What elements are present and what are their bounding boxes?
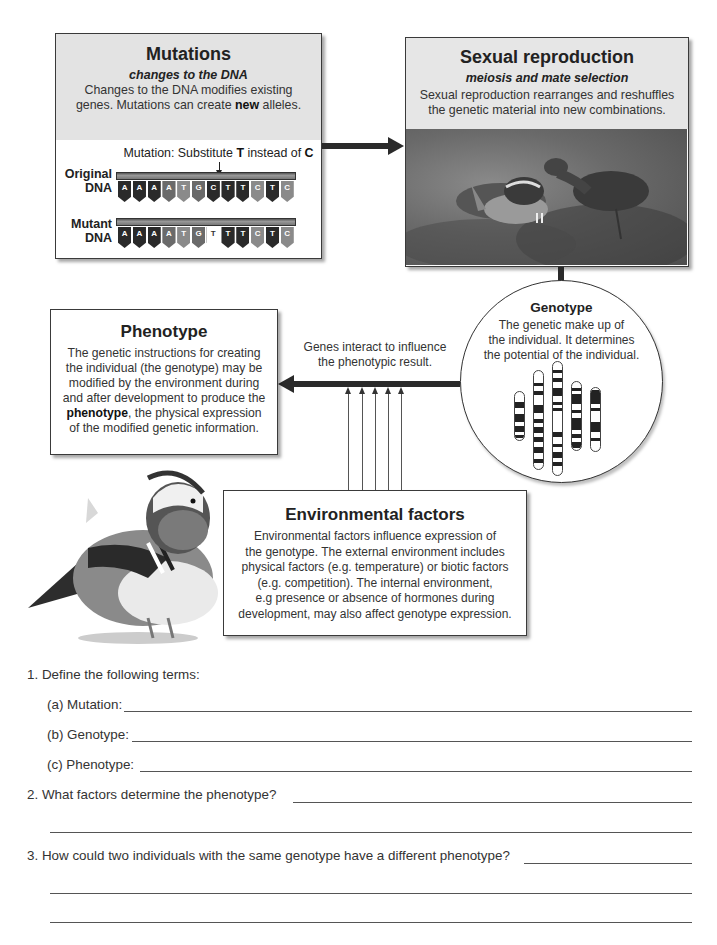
mutations-title: Mutations (56, 44, 321, 65)
answer-line-q3-2[interactable] (50, 893, 692, 894)
question-2: 2. What factors determine the phenotype? (27, 787, 276, 802)
answer-line-q2-1[interactable] (293, 802, 692, 803)
dna-base-g: G (192, 227, 205, 248)
dna-base-a: A (133, 181, 146, 202)
arrow-right-icon (322, 143, 390, 149)
question-1b-label: (b) Genotype: (47, 727, 129, 742)
dna-base-c: C (251, 181, 264, 202)
genotype-circle: Genotype The genetic make up of the indi… (460, 280, 663, 483)
mutations-header: Mutations changes to the DNA Changes to … (56, 34, 321, 140)
dna-backbone (116, 172, 296, 180)
dna-base-a: A (118, 181, 131, 202)
arrow-up-icon (362, 392, 363, 490)
dna-base-g: G (192, 181, 205, 202)
dna-base-a: A (118, 227, 131, 248)
environmental-factors-description: Environmental factors influence expressi… (224, 529, 526, 622)
mutations-text-line: genes. Mutations can create new alleles. (56, 98, 321, 113)
mutations-subtitle: changes to the DNA (56, 68, 321, 82)
question-1: 1. Define the following terms: (27, 667, 200, 682)
dna-base-a: A (162, 181, 175, 202)
answer-line-q3-3[interactable] (50, 922, 692, 923)
arrow-up-icon (388, 392, 389, 490)
mandarin-duck-illustration (18, 468, 218, 648)
arrow-up-icon (401, 392, 402, 490)
arrow-up-icon (375, 392, 376, 490)
answer-line-q2-2[interactable] (50, 832, 692, 833)
question-1a-label: (a) Mutation: (47, 697, 122, 712)
mutant-dna-strand: AAAATGTTTCTC (116, 218, 296, 250)
mandarin-ducks-photo (406, 129, 687, 265)
dna-base-c: C (281, 181, 294, 202)
dna-base-t: T (236, 227, 249, 248)
dna-base-t: T (266, 227, 279, 248)
sexual-reproduction-description: Sexual reproduction rearranges and reshu… (406, 88, 688, 118)
dna-base-a: A (148, 227, 161, 248)
phenotype-description: The genetic instructions for creating th… (51, 346, 277, 436)
mutations-text-line: Changes to the DNA modifies existing (56, 83, 321, 98)
answer-line-phenotype[interactable] (140, 771, 692, 772)
genes-interact-label: Genes interact to influence the phenotyp… (300, 340, 450, 370)
mutations-box: Mutations changes to the DNA Changes to … (55, 33, 322, 259)
sexual-reproduction-subtitle: meiosis and mate selection (406, 71, 688, 85)
original-dna-bases: AAAATGCTTCTC (118, 181, 294, 202)
original-dna-strand: AAAATGCTTCTC (116, 172, 296, 204)
phenotype-title: Phenotype (51, 322, 277, 342)
answer-line-genotype[interactable] (132, 741, 692, 742)
phenotype-box: Phenotype The genetic instructions for c… (50, 309, 278, 455)
sexual-reproduction-header: Sexual reproduction meiosis and mate sel… (406, 38, 688, 129)
dna-base-t: T (266, 181, 279, 202)
mutant-dna-bases: AAAATGTTTCTC (118, 227, 294, 248)
sexual-reproduction-title: Sexual reproduction (406, 47, 688, 68)
dna-base-t: T (207, 227, 220, 248)
dna-base-t: T (221, 181, 234, 202)
genotype-title: Genotype (461, 300, 662, 315)
mutation-caption: Mutation: Substitute T instead of C (56, 146, 321, 160)
dna-base-t: T (236, 181, 249, 202)
dna-base-t: T (177, 181, 190, 202)
environmental-factors-box: Environmental factors Environmental fact… (223, 490, 527, 636)
dna-base-t: T (177, 227, 190, 248)
mutant-dna-label: MutantDNA (56, 217, 112, 245)
question-1c-label: (c) Phenotype: (47, 757, 134, 772)
dna-base-a: A (148, 181, 161, 202)
dna-base-a: A (133, 227, 146, 248)
original-dna-label: OriginalDNA (56, 167, 112, 195)
genotype-description: The genetic make up of the individual. I… (461, 318, 662, 363)
question-3: 3. How could two individuals with the sa… (27, 848, 510, 863)
sexual-reproduction-box: Sexual reproduction meiosis and mate sel… (405, 37, 689, 267)
dna-base-a: A (162, 227, 175, 248)
arrow-up-icon (348, 392, 349, 490)
dna-base-c: C (207, 181, 220, 202)
dna-backbone (116, 218, 296, 226)
answer-line-mutation[interactable] (124, 711, 692, 712)
dna-base-t: T (221, 227, 234, 248)
environmental-factors-title: Environmental factors (224, 505, 526, 525)
dna-base-c: C (251, 227, 264, 248)
dna-base-c: C (281, 227, 294, 248)
answer-line-q3-1[interactable] (524, 863, 692, 864)
mutations-description: Changes to the DNA modifies existing gen… (56, 83, 321, 113)
